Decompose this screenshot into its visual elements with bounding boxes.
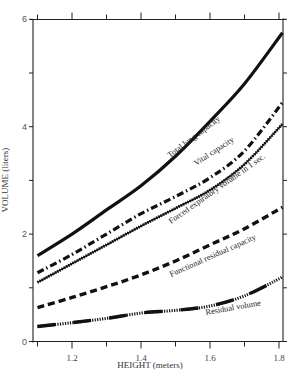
y-tick-label: 2	[22, 229, 27, 239]
y-tick-label: 6	[22, 14, 27, 24]
curve-vital-capacity	[38, 103, 283, 273]
y-tick-label: 0	[22, 337, 27, 347]
x-axis-title: HEIGHT (meters)	[117, 360, 183, 370]
y-axis-title: VOLUME (liters)	[0, 148, 10, 213]
axes: 1.21.41.61.80246	[22, 13, 287, 363]
x-tick-label: 1.6	[204, 353, 216, 363]
curve-functional-residual-capacity	[38, 207, 283, 307]
label-forced-expiratory-volume: Forced expiratory volume in 1 sec.	[167, 152, 267, 226]
curves	[38, 33, 283, 327]
curve-total-lung-capacity	[38, 33, 283, 256]
lung-volume-chart: 1.21.41.61.80246 Total lung capacity Vit…	[0, 0, 301, 381]
label-functional-residual-capacity: Functional residual capacity	[168, 232, 258, 279]
x-tick-label: 1.2	[66, 353, 77, 363]
x-tick-label: 1.8	[273, 353, 285, 363]
y-tick-label: 4	[22, 122, 27, 132]
